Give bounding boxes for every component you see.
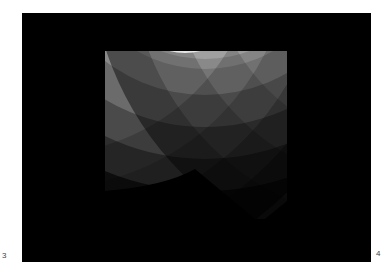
page-number-right: 4 xyxy=(376,249,380,258)
arc-band-figure xyxy=(105,51,287,219)
page-number-left: 3 xyxy=(2,251,6,260)
